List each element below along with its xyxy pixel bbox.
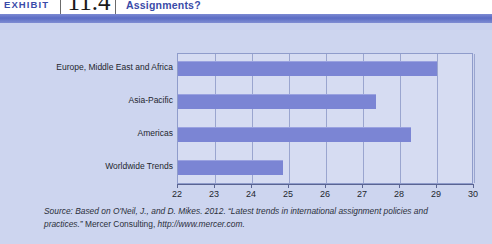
- category-label: Worldwide Trends: [3, 161, 173, 171]
- tick-label-30: 30: [461, 189, 485, 199]
- tick-label-25: 25: [276, 189, 300, 199]
- tick-mark-30: [473, 184, 474, 188]
- tick-label-26: 26: [313, 189, 337, 199]
- tick-mark-29: [436, 184, 437, 188]
- gridline-29: [437, 54, 438, 183]
- category-label: Asia-Pacific: [3, 95, 173, 105]
- exhibit-header: EXHIBIT 11.4 Assignments?: [0, 0, 492, 30]
- bar-chart: Europe, Middle East and AfricaAsia-Pacif…: [0, 30, 492, 200]
- gridline-30: [474, 54, 475, 183]
- plot-area: [177, 53, 473, 184]
- tick-label-24: 24: [239, 189, 263, 199]
- source-text: Source: Based on O'Neil, J., and D. Mike…: [44, 205, 464, 230]
- category-label: Americas: [3, 128, 173, 138]
- bar: [178, 94, 376, 109]
- tick-mark-25: [288, 184, 289, 188]
- category-axis-labels: Europe, Middle East and AfricaAsia-Pacif…: [0, 53, 173, 184]
- tick-mark-23: [214, 184, 215, 188]
- tick-mark-26: [325, 184, 326, 188]
- tick-mark-22: [177, 184, 178, 188]
- source-publisher: Mercer Consulting,: [85, 219, 155, 229]
- bar: [178, 61, 437, 76]
- exhibit-kicker-label: EXHIBIT: [4, 0, 49, 10]
- header-accent-band: [0, 14, 492, 23]
- tick-mark-28: [399, 184, 400, 188]
- bar: [178, 160, 283, 175]
- header-accent-band-lower: [0, 23, 492, 30]
- source-url: http://www.mercer.com.: [158, 219, 245, 229]
- tick-label-28: 28: [387, 189, 411, 199]
- tick-mark-24: [251, 184, 252, 188]
- tick-label-27: 27: [350, 189, 374, 199]
- tick-mark-27: [362, 184, 363, 188]
- tick-label-29: 29: [424, 189, 448, 199]
- bar: [178, 127, 411, 142]
- category-label: Europe, Middle East and Africa: [3, 62, 173, 72]
- tick-label-23: 23: [202, 189, 226, 199]
- tick-label-22: 22: [165, 189, 189, 199]
- source-note: Source: Based on O'Neil, J., and D. Mike…: [0, 200, 492, 244]
- exhibit-title: Assignments?: [126, 0, 201, 11]
